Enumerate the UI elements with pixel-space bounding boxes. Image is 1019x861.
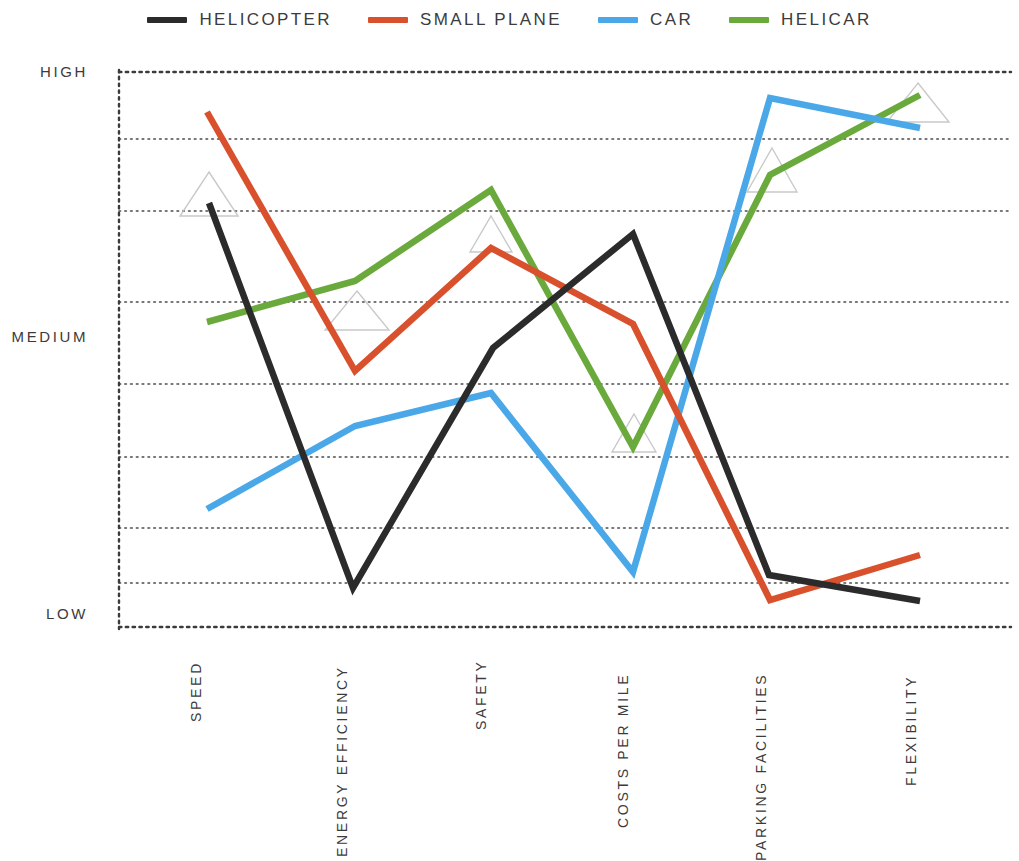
watermark-triangle-icon-2 [325, 291, 389, 330]
series-line-helicopter[interactable] [209, 203, 920, 601]
gridlines [119, 70, 1011, 629]
series-line-small-plane[interactable] [207, 112, 920, 600]
watermark-triangle-icon-6 [887, 83, 949, 122]
series-line-car[interactable] [207, 98, 920, 572]
series-line-helicar[interactable] [207, 95, 920, 447]
series-group [207, 95, 920, 601]
